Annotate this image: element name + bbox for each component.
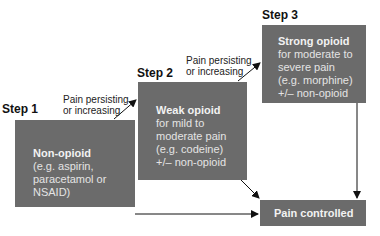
step3-label: Step 3 xyxy=(262,8,298,22)
condition-label-2: Pain persisting or increasing xyxy=(186,55,252,77)
step2-label: Step 2 xyxy=(137,66,173,80)
condition-line: or increasing xyxy=(63,105,120,116)
step2-title: Weak opioid xyxy=(156,104,247,117)
pain-controlled-title: Pain controlled xyxy=(274,207,366,220)
condition-line: Pain persisting xyxy=(186,55,252,66)
pain-controlled-box: Pain controlled xyxy=(260,200,366,226)
step1-label: Step 1 xyxy=(2,102,38,116)
step3-detail: severe pain xyxy=(278,61,366,74)
step3-detail: +/– non-opioid xyxy=(278,87,366,100)
step2-box: Weak opioid for mild to moderate pain (e… xyxy=(138,82,247,180)
step1-title: Non-opioid xyxy=(33,147,135,160)
step2-detail: (e.g. codeine) xyxy=(156,143,247,156)
step1-box: Non-opioid (e.g. aspirin, paracetamol or… xyxy=(15,120,135,207)
step1-detail: NSAID) xyxy=(33,186,135,199)
step2-detail: for mild to xyxy=(156,117,247,130)
step1-detail: (e.g. aspirin, xyxy=(33,160,135,173)
condition-line: or increasing xyxy=(186,66,243,77)
condition-label-1: Pain persisting or increasing xyxy=(63,94,129,116)
step3-detail: (e.g. morphine) xyxy=(278,74,366,87)
step1-detail: paracetamol or xyxy=(33,173,135,186)
arrow-step2-to-controlled xyxy=(241,180,259,198)
step2-detail: moderate pain xyxy=(156,130,247,143)
step3-detail: for moderate to xyxy=(278,48,366,61)
condition-line: Pain persisting xyxy=(63,94,129,105)
step2-detail: +/– non-opioid xyxy=(156,156,247,169)
step3-box: Strong opioid for moderate to severe pai… xyxy=(262,25,366,103)
step3-title: Strong opioid xyxy=(278,35,366,48)
